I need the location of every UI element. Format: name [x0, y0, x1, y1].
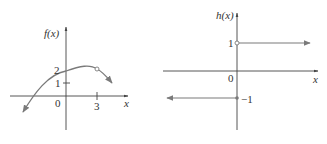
- left-tick-0-label: 0: [55, 97, 61, 109]
- right-tick-m1-label: −1: [241, 93, 253, 105]
- right-open-point: [235, 41, 239, 45]
- right-x-label: x: [312, 73, 318, 85]
- right-tick-1-label: 1: [228, 37, 234, 49]
- right-y-label: h(x): [216, 9, 234, 22]
- left-x-label: x: [123, 97, 129, 109]
- right-graph: h(x) x 0 1 −1: [163, 9, 318, 130]
- left-tick-1-label: 1: [55, 77, 61, 89]
- right-tick-0-label: 0: [228, 72, 234, 84]
- left-tick-3-label: 3: [94, 100, 100, 112]
- left-tick-2-label: 2: [54, 64, 60, 76]
- left-y-label: f(x): [44, 27, 60, 40]
- figure: f(x) x 0 3 2 1 h(x) x 0 1 −1: [0, 0, 327, 144]
- left-graph: f(x) x 0 3 2 1: [10, 27, 129, 130]
- left-open-point: [95, 67, 99, 71]
- right-closed-point: [235, 96, 239, 100]
